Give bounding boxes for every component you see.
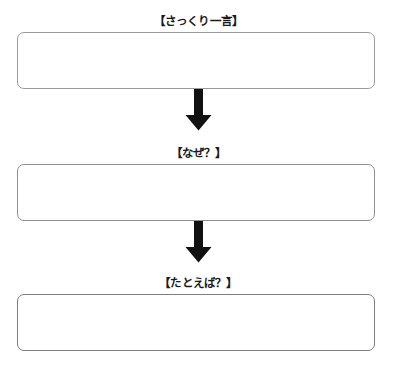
section-label-summary: 【さっくり一言】 <box>0 15 397 28</box>
arrow-down-glyph <box>185 89 212 131</box>
arrow-down-icon <box>185 221 212 263</box>
answer-box-why[interactable] <box>17 164 375 221</box>
worksheet-canvas: 【さっくり一言】 【なぜ？】 【たとえば？】 <box>0 0 397 372</box>
section-label-why: 【なぜ？】 <box>0 147 397 160</box>
arrow-down-glyph <box>185 221 212 263</box>
answer-box-example[interactable] <box>17 294 375 351</box>
arrow-down-icon <box>185 89 212 131</box>
answer-box-summary[interactable] <box>17 32 375 89</box>
section-label-example: 【たとえば？】 <box>0 277 397 290</box>
